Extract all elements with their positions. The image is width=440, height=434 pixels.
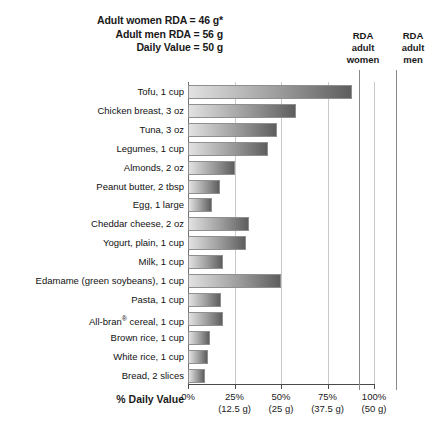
rda-men-line2: adult xyxy=(390,42,436,54)
header-notes: Adult women RDA = 46 g* Adult men RDA = … xyxy=(8,14,223,55)
category-label: Brown rice, 1 cup xyxy=(2,332,184,344)
bar xyxy=(188,331,210,345)
bar-row xyxy=(188,328,374,348)
bar xyxy=(188,369,205,383)
bar-row xyxy=(188,290,374,310)
category-label: Edamame (green soybeans), 1 cup xyxy=(2,275,184,287)
rda-women-line2: adult xyxy=(340,42,386,54)
bar-row xyxy=(188,177,374,197)
bar xyxy=(188,312,223,326)
bar-row xyxy=(188,309,374,329)
category-label: Peanut butter, 2 tbsp xyxy=(2,181,184,193)
category-labels: Tofu, 1 cupChicken breast, 3 ozTuna, 3 o… xyxy=(0,82,184,384)
category-label: Legumes, 1 cup xyxy=(2,143,184,155)
x-tick-grams: (50 g) xyxy=(344,403,404,415)
x-tick-label-100: 100%(50 g) xyxy=(344,391,404,414)
rda-adult-men-header: RDA adult men xyxy=(390,30,436,66)
category-label: Tofu, 1 cup xyxy=(2,86,184,98)
x-tick-percent: 100% xyxy=(344,391,404,403)
bar-row xyxy=(188,82,374,102)
gridline-100 xyxy=(374,82,375,384)
x-axis-title: % Daily Value xyxy=(60,393,184,405)
rda-women-line3: women xyxy=(340,54,386,66)
category-label: All-bran® cereal, 1 cup xyxy=(2,313,184,328)
bar-row xyxy=(188,366,374,386)
category-label: White rice, 1 cup xyxy=(2,351,184,363)
bar xyxy=(188,274,281,288)
refline-rda-adult-men xyxy=(396,70,397,390)
bar xyxy=(188,180,220,194)
bar xyxy=(188,198,212,212)
category-label: Egg, 1 large xyxy=(2,199,184,211)
bar-row xyxy=(188,120,374,140)
bar xyxy=(188,217,249,231)
rda-women-line1: RDA xyxy=(340,30,386,42)
bar xyxy=(188,142,268,156)
bar xyxy=(188,123,277,137)
category-label: Chicken breast, 3 oz xyxy=(2,105,184,117)
note-women-rda: Adult women RDA = 46 g* xyxy=(8,14,223,28)
bar-row xyxy=(188,139,374,159)
category-label: Tuna, 3 oz xyxy=(2,124,184,136)
bar-row xyxy=(188,195,374,215)
bar xyxy=(188,255,223,269)
bar xyxy=(188,350,208,364)
rda-adult-women-header: RDA adult women xyxy=(340,30,386,66)
category-label: Almonds, 2 oz xyxy=(2,162,184,174)
bar xyxy=(188,85,352,99)
category-label: Pasta, 1 cup xyxy=(2,294,184,306)
rda-reference-headers: RDA adult women RDA adult men xyxy=(340,30,440,76)
rda-men-line3: men xyxy=(390,54,436,66)
bar xyxy=(188,161,235,175)
bar-row xyxy=(188,158,374,178)
category-label: Cheddar cheese, 2 oz xyxy=(2,218,184,230)
rda-men-line1: RDA xyxy=(390,30,436,42)
bar-row xyxy=(188,252,374,272)
bar-row xyxy=(188,101,374,121)
plot-area xyxy=(188,82,374,384)
note-daily-value: Daily Value = 50 g xyxy=(8,41,223,55)
protein-daily-value-chart: Adult women RDA = 46 g* Adult men RDA = … xyxy=(0,0,440,434)
bar-row xyxy=(188,233,374,253)
bar xyxy=(188,236,246,250)
bar xyxy=(188,293,221,307)
tick-100 xyxy=(374,384,375,389)
bar-row xyxy=(188,271,374,291)
bar-row xyxy=(188,214,374,234)
bar xyxy=(188,104,296,118)
category-label: Yogurt, plain, 1 cup xyxy=(2,237,184,249)
note-men-rda: Adult men RDA = 56 g xyxy=(8,28,223,42)
bar-row xyxy=(188,347,374,367)
category-label: Bread, 2 slices xyxy=(2,370,184,382)
category-label: Milk, 1 cup xyxy=(2,256,184,268)
